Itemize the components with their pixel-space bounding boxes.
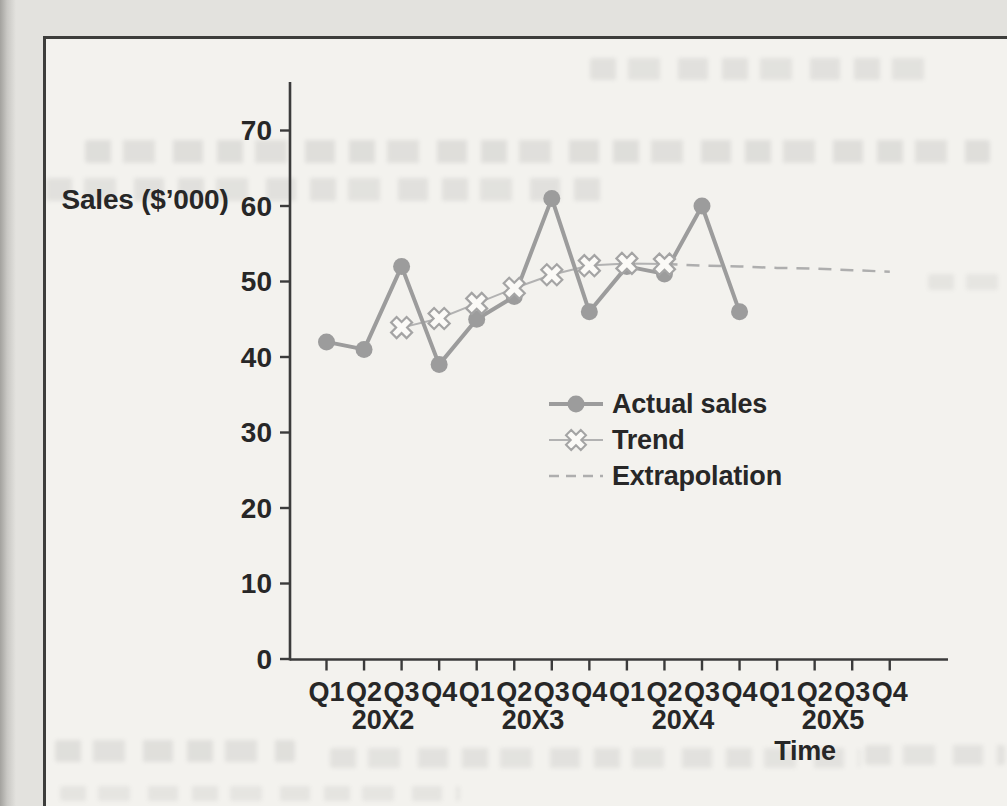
y-tick-label: 10 <box>241 568 272 599</box>
actual-sales-marker <box>431 356 448 373</box>
legend-entry-trend: Trend <box>547 422 782 458</box>
y-tick-label: 30 <box>241 417 272 448</box>
x-tick-label: Q1 <box>308 677 344 707</box>
actual-sales-marker <box>731 303 748 320</box>
x-tick-label: Q2 <box>646 677 682 707</box>
legend-label-extrapolation: Extrapolation <box>612 461 782 492</box>
x-tick-label: Q3 <box>534 677 570 707</box>
y-tick-label: 0 <box>256 644 272 675</box>
y-axis-title: Sales ($’000) <box>55 184 235 216</box>
y-tick-label: 20 <box>241 493 272 524</box>
scanned-textbook-page: { "chart_data": { "type": "line", "title… <box>0 0 1007 806</box>
dashed-line-icon <box>547 463 605 489</box>
actual-sales-line-icon <box>547 391 605 417</box>
y-tick-label: 60 <box>241 191 272 222</box>
x-tick-label: Q2 <box>496 677 532 707</box>
chart-legend: Actual sales Trend Extrapolation <box>547 386 782 494</box>
x-tick-label: Q1 <box>459 677 495 707</box>
y-tick-label: 70 <box>241 115 272 146</box>
x-tick-label: Q1 <box>759 677 795 707</box>
x-tick-label: Q2 <box>797 677 833 707</box>
trend-x-marker <box>541 264 562 285</box>
trend-x-marker <box>429 308 450 329</box>
x-tick-label: Q3 <box>834 677 870 707</box>
x-tick-label: Q4 <box>571 677 607 707</box>
x-tick-label: Q3 <box>384 677 420 707</box>
legend-entry-actual-sales: Actual sales <box>547 386 782 422</box>
trend-x-marker <box>391 317 412 338</box>
time-series-chart-plot: 010203040506070Q1Q2Q3Q4Q1Q2Q3Q4Q1Q2Q3Q4Q… <box>0 0 1007 806</box>
x-axis-year-label: 20X5 <box>788 705 878 736</box>
x-axis-year-label: 20X3 <box>488 705 578 736</box>
actual-sales-marker <box>581 303 598 320</box>
x-axis-year-label: 20X2 <box>338 705 428 736</box>
extrapolation-dashed-line <box>665 264 890 272</box>
actual-sales-marker <box>694 198 711 215</box>
x-tick-label: Q4 <box>872 677 908 707</box>
x-tick-label: Q2 <box>346 677 382 707</box>
x-axis-year-label: 20X4 <box>638 705 728 736</box>
trend-x-marker-icon <box>547 427 605 453</box>
legend-entry-extrapolation: Extrapolation <box>547 458 782 494</box>
x-tick-label: Q3 <box>684 677 720 707</box>
y-tick-label: 40 <box>241 342 272 373</box>
x-tick-label: Q1 <box>609 677 645 707</box>
actual-sales-marker <box>356 341 373 358</box>
actual-sales-marker <box>543 190 560 207</box>
actual-sales-marker <box>393 258 410 275</box>
legend-label-trend: Trend <box>612 425 685 456</box>
legend-label-actual-sales: Actual sales <box>612 389 767 420</box>
y-tick-label: 50 <box>241 266 272 297</box>
x-tick-label: Q4 <box>722 677 758 707</box>
x-axis-title: Time <box>755 736 855 767</box>
actual-sales-marker <box>318 333 335 350</box>
x-tick-label: Q4 <box>421 677 457 707</box>
